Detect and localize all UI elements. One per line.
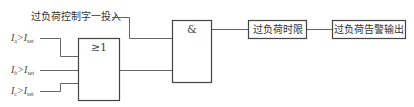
condition-ia: Ia>Iset [11,32,34,47]
and-gate-symbol: & [172,23,212,36]
output-box-label: 过负荷告警输出 [332,20,406,39]
timer-box-label: 过负荷时限 [248,20,307,39]
condition-ib: Ib>Iset [11,64,34,79]
cond-ref-sub: set [27,70,34,76]
cond-ref-sub: set [27,91,34,97]
cond-op: > [17,85,24,96]
wire-ia-to-or [40,39,78,57]
wire-control-to-and [112,18,172,39]
cond-op: > [17,32,24,43]
cond-ref-sub: set [27,38,34,44]
control-word-label: 过负荷控制字一投入 [31,11,121,23]
wire-ic-to-or [40,84,78,92]
or-gate-symbol: ≥1 [78,41,120,54]
condition-ic: Ic>Iset [11,85,34,100]
